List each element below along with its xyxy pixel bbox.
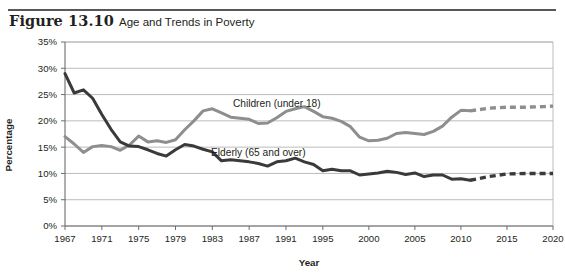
y-tick-label: 35% [38,36,58,47]
figure-container: Figure 13.10Age and Trends in Poverty 0%… [0,0,565,272]
x-tick-label: 1995 [312,233,333,244]
x-axis-title: Year [299,257,320,268]
line-chart: 0%5%10%15%20%25%30%35% 19671971197519791… [0,32,565,272]
figure-number: Figure 13.10 [9,12,114,29]
x-tick-label: 1979 [165,233,186,244]
caption-divider [8,9,556,11]
page-title: Age and Trends in Poverty [119,16,255,28]
series-inline-labels: Children (under 18)Elderly (65 and over) [211,98,321,157]
x-tick-label: 2010 [450,233,471,244]
data-series [65,74,553,181]
x-tick-label: 1971 [91,233,112,244]
x-axis-ticks: 1967197119751979198319871991199520002005… [54,226,563,244]
y-axis-title: Percentage [3,118,14,171]
x-tick-label: 2000 [358,233,379,244]
series-line-projected [470,173,553,180]
y-tick-label: 20% [38,115,58,126]
x-tick-label: 2005 [404,233,425,244]
x-tick-label: 1975 [128,233,149,244]
x-tick-label: 1987 [238,233,259,244]
series-line-solid [65,74,470,181]
series-label-elderly: Elderly (65 and over) [211,147,306,158]
series-line-projected [470,106,553,111]
x-tick-label: 1967 [54,233,75,244]
y-tick-label: 5% [43,194,57,205]
chart-plot-area: 0%5%10%15%20%25%30%35% 19671971197519791… [0,32,565,272]
series-label-children: Children (under 18) [233,98,321,109]
y-tick-label: 25% [38,89,58,100]
plot-frame [65,42,553,226]
y-tick-label: 0% [43,220,57,231]
figure-caption: Figure 13.10Age and Trends in Poverty [9,13,255,29]
gridlines [65,42,553,226]
y-tick-label: 15% [38,142,58,153]
y-tick-label: 30% [38,63,58,74]
x-tick-label: 1983 [202,233,223,244]
x-tick-label: 2020 [542,233,563,244]
x-tick-label: 1991 [275,233,296,244]
y-axis-ticks: 0%5%10%15%20%25%30%35% [38,36,65,231]
y-tick-label: 10% [38,168,58,179]
x-tick-label: 2015 [496,233,517,244]
